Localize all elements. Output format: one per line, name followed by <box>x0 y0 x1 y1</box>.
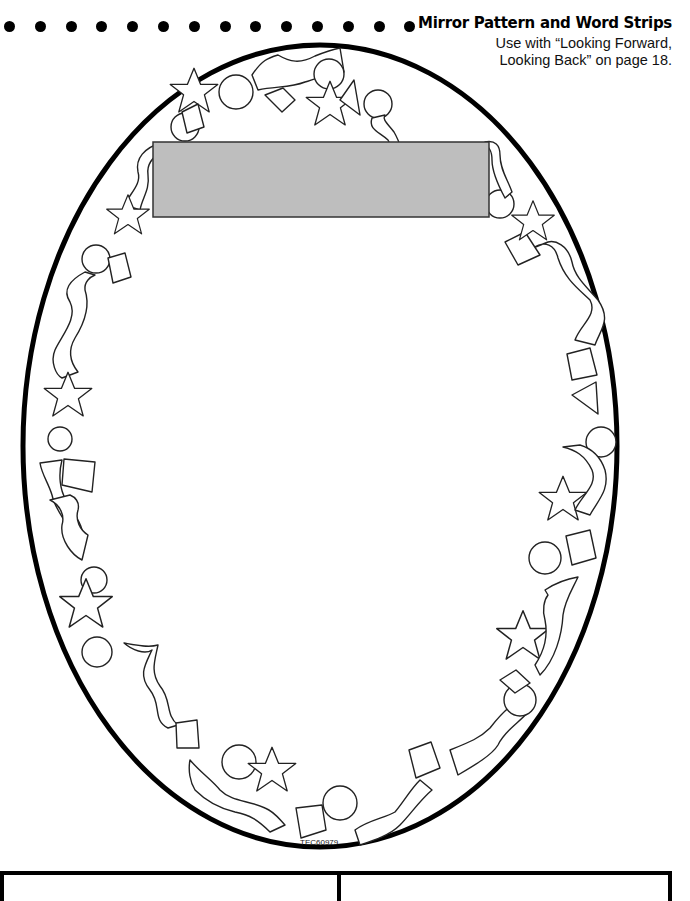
square-icon <box>176 720 199 748</box>
square-icon <box>296 805 326 838</box>
square-icon <box>409 742 440 778</box>
product-code: TEC60979 <box>300 838 338 847</box>
star-icon <box>539 476 587 520</box>
circle-icon <box>364 90 392 118</box>
square-icon <box>108 253 131 283</box>
triangle-icon <box>340 80 360 115</box>
circle-icon <box>82 245 110 273</box>
triangle-icon <box>572 382 598 414</box>
circle-icon <box>82 637 112 667</box>
square-icon <box>62 459 95 492</box>
circle-icon <box>529 542 561 574</box>
circle-icon <box>48 427 72 451</box>
word-strip-1[interactable] <box>0 871 341 901</box>
star-icon <box>44 372 92 416</box>
square-icon <box>265 88 295 112</box>
ribbon-icon <box>50 495 88 560</box>
square-icon <box>566 530 596 565</box>
square-icon <box>567 348 597 380</box>
star-icon <box>512 201 555 240</box>
circle-icon <box>323 786 357 820</box>
word-strip-2[interactable] <box>337 871 672 901</box>
ribbon-icon <box>53 272 95 378</box>
mirror-label-box <box>153 142 489 217</box>
square-icon <box>182 104 204 133</box>
circle-icon <box>222 745 256 779</box>
star-icon <box>248 747 296 791</box>
circle-icon <box>219 75 253 109</box>
ribbon-icon <box>124 643 178 728</box>
